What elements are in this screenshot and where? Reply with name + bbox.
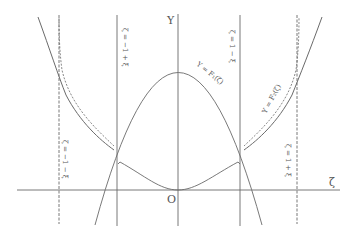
label-1-minus-xi: ζ = 1 − ξ — [228, 30, 236, 63]
label-neg-1-minus-xi: ζ = −1 − ξ — [61, 140, 69, 179]
label-1-plus-xi: ζ = 1 + ξ — [284, 144, 292, 177]
curve-f2-lower — [120, 162, 238, 190]
curve-f2-upper-left-asymptote — [59, 17, 114, 146]
origin-label: O — [167, 193, 176, 206]
curve-f2-lower-hook-left — [118, 162, 120, 164]
label-curve-f2: Y = F₂(ζ) — [260, 83, 283, 116]
label-curve-f1: Y = F₁(ζ) — [194, 60, 225, 87]
curve-f2-upper-right — [244, 17, 322, 150]
diagram-canvas: Y ζ O ζ = −1 + ξ ζ = 1 − ξ ζ = −1 − ξ ζ … — [0, 0, 358, 242]
x-axis-label: ζ — [329, 176, 335, 189]
curve-f2-upper-left — [38, 17, 114, 150]
label-neg-1-plus-xi: ζ = −1 + ξ — [121, 28, 129, 67]
curve-f1-parabola — [95, 73, 262, 226]
curve-f2-upper-right-asymptote — [244, 17, 299, 146]
y-axis-label: Y — [166, 14, 175, 27]
